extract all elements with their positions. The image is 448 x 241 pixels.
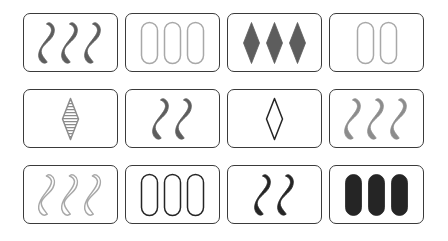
oval-symbol	[367, 173, 386, 217]
oval-symbol	[140, 21, 159, 65]
set-card[interactable]	[329, 89, 424, 148]
squiggle-symbol	[152, 97, 171, 141]
set-card[interactable]	[329, 13, 424, 72]
set-card[interactable]	[23, 13, 118, 72]
squiggle-symbol	[175, 97, 194, 141]
squiggle-symbol	[61, 21, 80, 65]
oval-symbol	[390, 173, 409, 217]
diamond-symbol	[265, 97, 284, 141]
set-card[interactable]	[329, 165, 424, 224]
set-card[interactable]	[125, 89, 220, 148]
diamond-symbol	[61, 97, 80, 141]
set-card[interactable]	[23, 89, 118, 148]
oval-symbol	[344, 173, 363, 217]
squiggle-symbol	[84, 21, 103, 65]
oval-symbol	[379, 21, 398, 65]
squiggle-symbol	[344, 97, 363, 141]
diamond-symbol	[265, 21, 284, 65]
squiggle-symbol	[38, 173, 57, 217]
squiggle-symbol	[277, 173, 296, 217]
squiggle-symbol	[84, 173, 103, 217]
set-card[interactable]	[227, 165, 322, 224]
oval-symbol	[356, 21, 375, 65]
oval-symbol	[163, 173, 182, 217]
squiggle-symbol	[61, 173, 80, 217]
diamond-symbol	[288, 21, 307, 65]
squiggle-symbol	[390, 97, 409, 141]
set-card[interactable]	[125, 13, 220, 72]
diamond-symbol	[242, 21, 261, 65]
squiggle-symbol	[254, 173, 273, 217]
set-card[interactable]	[125, 165, 220, 224]
set-card[interactable]	[227, 89, 322, 148]
oval-symbol	[140, 173, 159, 217]
oval-symbol	[163, 21, 182, 65]
squiggle-symbol	[38, 21, 57, 65]
set-card[interactable]	[23, 165, 118, 224]
oval-symbol	[186, 173, 205, 217]
squiggle-symbol	[367, 97, 386, 141]
oval-symbol	[186, 21, 205, 65]
set-card[interactable]	[227, 13, 322, 72]
set-card-board	[23, 13, 425, 223]
